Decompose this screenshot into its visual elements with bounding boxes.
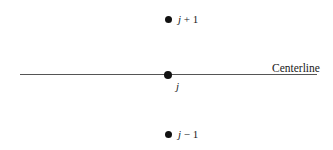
- node-label-j-minus-1: j − 1: [178, 128, 198, 140]
- grid-diagram: Centerline j + 1 j j − 1: [0, 0, 333, 150]
- node-suffix: + 1: [181, 13, 198, 25]
- centerline-label: Centerline: [272, 62, 320, 74]
- node-dot-j-plus-1: [165, 16, 172, 23]
- node-label-j-plus-1: j + 1: [178, 13, 198, 25]
- node-dot-j: [164, 71, 172, 79]
- node-dot-j-minus-1: [165, 131, 172, 138]
- node-suffix: − 1: [181, 128, 198, 140]
- node-label-j: j: [176, 80, 179, 92]
- node-var: j: [176, 80, 179, 92]
